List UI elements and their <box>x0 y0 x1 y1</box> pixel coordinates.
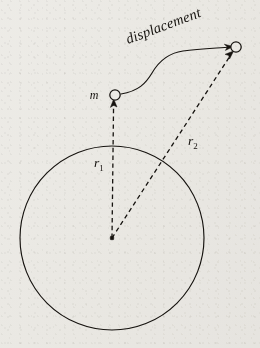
r2-arrowhead-icon <box>225 51 234 59</box>
physics-diagram-figure: m r1 r2 displacement <box>0 0 260 348</box>
r2-label-subscript: 2 <box>193 141 198 151</box>
r2-vector-line <box>112 55 231 239</box>
r2-label-group: r2 <box>188 133 198 151</box>
initial-position-marker <box>110 90 120 100</box>
r1-label: r1 <box>94 155 104 173</box>
displacement-curve <box>121 47 230 94</box>
mass-label: m <box>90 88 99 102</box>
r1-label-group: r1 <box>94 155 104 173</box>
displacement-label: displacement <box>123 4 203 47</box>
diagram-canvas: m r1 r2 displacement <box>0 0 260 348</box>
displacement-label-group: displacement <box>123 4 203 47</box>
r2-label: r2 <box>188 133 198 151</box>
r1-label-subscript: 1 <box>99 163 104 173</box>
final-position-marker <box>231 42 241 52</box>
r1-vector-line <box>112 103 114 238</box>
